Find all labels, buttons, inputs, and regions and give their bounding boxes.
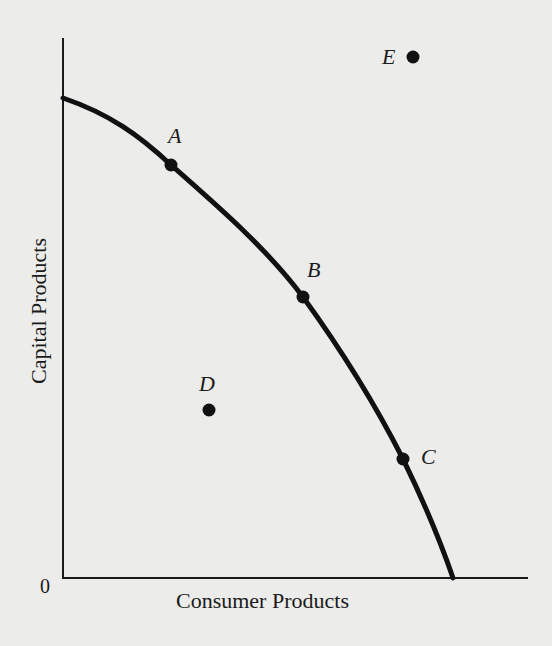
origin-label: 0 [40, 576, 50, 596]
x-axis-title: Consumer Products [176, 590, 349, 612]
point-a-label: A [168, 125, 181, 147]
point-a-marker [165, 159, 178, 172]
point-d-label: D [199, 373, 215, 395]
point-c-marker [397, 453, 410, 466]
point-b-label: B [307, 259, 320, 281]
point-c-label: C [421, 446, 436, 468]
point-d-marker [203, 404, 216, 417]
point-b-marker [297, 291, 310, 304]
y-axis-title: Capital Products [28, 238, 50, 384]
chart-figure: A B C D E 0 Consumer Products Capital Pr… [0, 0, 552, 646]
point-e-label: E [382, 46, 395, 68]
ppf-curve [63, 98, 453, 578]
plot-area [0, 0, 552, 646]
point-e-marker [407, 51, 420, 64]
